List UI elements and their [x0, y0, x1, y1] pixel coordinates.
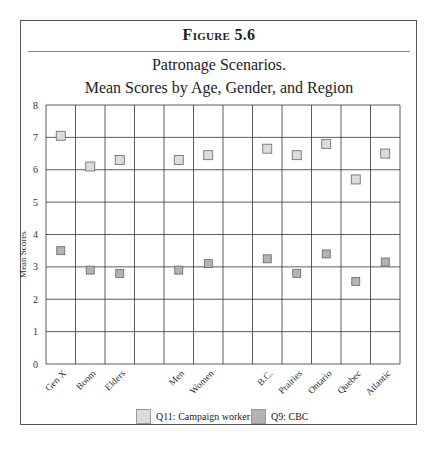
y-tick-label: 6: [33, 164, 38, 175]
marker-q9: [116, 269, 124, 277]
marker-q9: [263, 255, 271, 263]
marker-q11: [115, 156, 124, 165]
marker-q11: [381, 149, 390, 158]
marker-q11: [322, 139, 331, 148]
y-tick-label: 4: [33, 229, 38, 240]
y-tick-label: 7: [33, 132, 38, 143]
marker-q11: [351, 175, 360, 184]
marker-q9: [204, 260, 212, 268]
legend-label-q9: Q9: CBC: [271, 411, 309, 422]
legend-swatch-q9: [251, 409, 266, 424]
x-tick-label: Women: [188, 368, 216, 396]
marker-q9: [352, 277, 360, 285]
legend: Q11: Campaign worker Q9: CBC: [0, 409, 438, 429]
marker-q9: [86, 266, 94, 274]
y-tick-label: 3: [33, 261, 38, 272]
marker-q9: [57, 247, 65, 255]
y-tick-label: 0: [33, 359, 38, 370]
marker-q9: [381, 258, 389, 266]
y-tick-label: 2: [33, 294, 38, 305]
legend-swatch-q11: [136, 409, 151, 424]
x-tick-label: Elders: [103, 368, 127, 392]
legend-item-q11: Q11: Campaign worker: [136, 409, 250, 424]
x-tick-label: Gen X: [43, 368, 68, 393]
marker-q11: [174, 156, 183, 165]
x-tick-label: Ontario: [306, 368, 334, 396]
x-tick-label: Men: [167, 368, 187, 388]
legend-label-q11: Q11: Campaign worker: [156, 411, 250, 422]
y-axis-label: Mean Scores: [18, 231, 28, 278]
marker-q9: [293, 269, 301, 277]
marker-q11: [263, 144, 272, 153]
marker-q9: [322, 250, 330, 258]
y-tick-label: 1: [33, 326, 38, 337]
y-tick-label: 8: [33, 100, 38, 111]
x-tick-label: Prairies: [277, 368, 305, 396]
x-tick-label: Boom: [74, 368, 98, 392]
x-tick-label: B.C.: [255, 368, 274, 387]
x-tick-label: Quebec: [336, 368, 364, 396]
legend-item-q9: Q9: CBC: [251, 409, 309, 424]
marker-q11: [86, 162, 95, 171]
marker-q9: [175, 266, 183, 274]
x-tick-label: Atlantic: [364, 368, 393, 397]
marker-q11: [56, 131, 65, 140]
marker-q11: [204, 151, 213, 160]
y-tick-label: 5: [33, 197, 38, 208]
marker-q11: [292, 151, 301, 160]
scatter-chart: 012345678Mean ScoresGen XBoomEldersMenWo…: [0, 0, 438, 449]
